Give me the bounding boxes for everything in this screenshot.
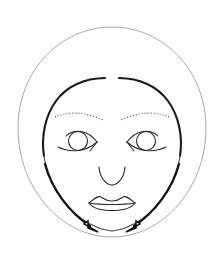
eye-right-group	[127, 131, 166, 151]
head-outline-group	[18, 27, 206, 237]
head-outline	[18, 27, 206, 237]
eyebrow-left	[55, 113, 103, 120]
mouth-group	[89, 196, 135, 210]
eyebrow-right	[121, 113, 169, 120]
eyelid-upper-right	[127, 131, 158, 142]
arrow-right-group	[126, 164, 179, 232]
eye-left-group	[58, 131, 97, 151]
eyebrows-group	[55, 113, 169, 120]
iris-left	[69, 132, 88, 151]
eyelid-upper-left	[66, 131, 97, 142]
arrow-right-shaft	[134, 164, 179, 226]
arrow-left-shaft	[45, 164, 90, 226]
face-outline-group	[43, 78, 181, 231]
mouth-line	[89, 203, 135, 205]
face-outline-right-lower	[112, 156, 180, 231]
face-outline-left-lower	[44, 156, 112, 231]
nose-group	[99, 167, 125, 185]
figure-root	[0, 0, 224, 262]
face-diagram	[0, 0, 224, 262]
arrow-left-group	[45, 164, 98, 232]
nose	[99, 167, 125, 185]
iris-right	[137, 132, 156, 151]
upper-lip	[89, 196, 135, 203]
